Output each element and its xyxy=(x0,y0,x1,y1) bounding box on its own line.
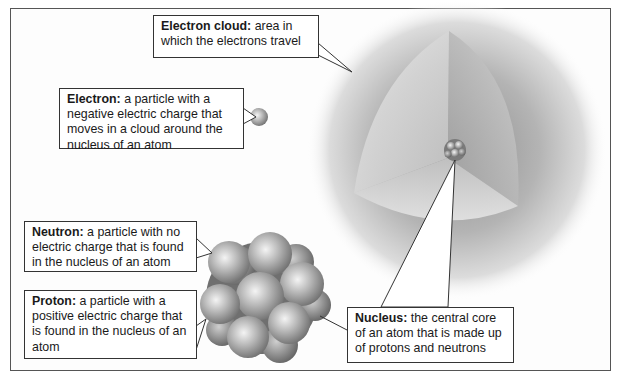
callout-neutron: Neutron: a particle with no electric cha… xyxy=(24,221,197,272)
nucleus-cluster xyxy=(200,232,331,363)
callout-proton: Proton: a particle with a positive elect… xyxy=(24,290,197,359)
term-nucleus: Nucleus: xyxy=(355,311,407,325)
term-neutron: Neutron: xyxy=(32,225,84,239)
term-electron-cloud: Electron cloud: xyxy=(161,19,251,33)
cloud-nucleus xyxy=(444,139,466,161)
term-proton: Proton: xyxy=(32,294,76,308)
callout-electron-cloud: Electron cloud: area in which the electr… xyxy=(153,15,319,58)
callout-nucleus: Nucleus: the central core of an atom tha… xyxy=(347,307,514,363)
term-electron: Electron: xyxy=(67,92,121,106)
callout-electron: Electron: a particle with a negative ele… xyxy=(59,88,244,149)
